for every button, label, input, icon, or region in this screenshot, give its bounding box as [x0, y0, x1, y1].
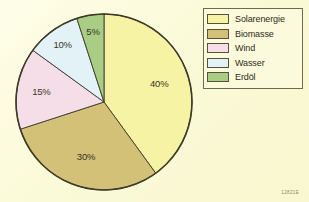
slice-value-label: 10% [53, 39, 72, 50]
legend-item: Erdöl [207, 70, 299, 84]
legend-item: Solarenergie [207, 12, 299, 26]
slice-value-label: 5% [86, 26, 100, 37]
legend-label: Wind [235, 43, 255, 53]
legend: SolarenergieBiomasseWindWasserErdöl [203, 8, 303, 89]
legend-item: Wind [207, 41, 299, 55]
legend-swatch [207, 72, 229, 82]
legend-swatch [207, 14, 229, 24]
legend-swatch [207, 29, 229, 39]
slice-value-label: 40% [150, 78, 169, 89]
legend-label: Erdöl [235, 72, 256, 82]
pie-chart: 40%30%15%10%5% [13, 11, 195, 193]
legend-item: Wasser [207, 56, 299, 70]
legend-swatch [207, 58, 229, 68]
legend-label: Biomasse [235, 29, 274, 39]
legend-label: Solarenergie [235, 14, 285, 24]
pie-svg: 40%30%15%10%5% [13, 11, 195, 193]
pie-slices [16, 14, 192, 190]
pie-chart-figure: 40%30%15%10%5% SolarenergieBiomasseWindW… [0, 0, 309, 202]
legend-swatch [207, 43, 229, 53]
legend-label: Wasser [235, 58, 265, 68]
plate-code: 12821E [281, 190, 299, 195]
legend-item: Biomasse [207, 27, 299, 41]
slice-value-label: 15% [32, 86, 51, 97]
slice-value-label: 30% [77, 151, 96, 162]
